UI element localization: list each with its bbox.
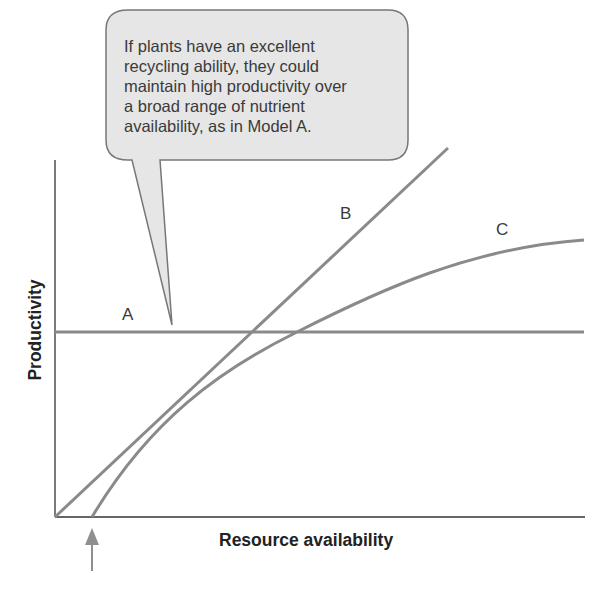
x-axis-label: Resource availability <box>219 530 393 551</box>
callout-line: maintain high productivity over <box>124 76 394 96</box>
callout-line: a broad range of nutrient <box>124 96 394 116</box>
arrow-up-icon <box>85 528 99 545</box>
callout-line: availability, as in Model A. <box>124 116 394 136</box>
callout-text: If plants have an excellent recycling ab… <box>124 36 394 136</box>
callout-line: If plants have an excellent <box>124 36 394 56</box>
label-a: A <box>122 305 133 325</box>
label-b: B <box>340 204 351 224</box>
y-axis-label: Productivity <box>25 279 46 380</box>
label-c: C <box>496 220 508 240</box>
callout-line: recycling ability, they could <box>124 56 394 76</box>
